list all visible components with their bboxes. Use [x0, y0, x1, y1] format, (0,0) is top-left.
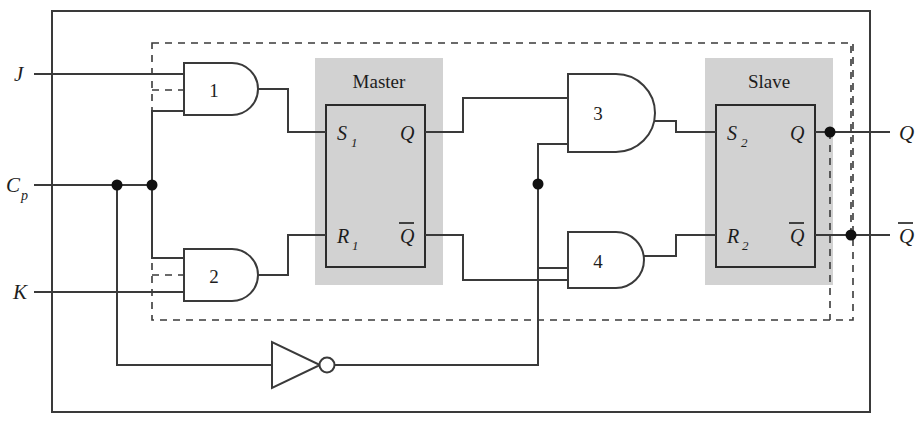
master-pin-r1-subscript: 1: [352, 238, 359, 253]
junction-dot-cp-1: [112, 180, 123, 191]
output-label-q: Q: [899, 121, 914, 145]
inverter-bubble-icon: [320, 358, 335, 373]
inverter-gate[interactable]: [272, 342, 335, 388]
gate4-label: 4: [593, 251, 603, 272]
slave-pin-qbar: Q: [789, 223, 805, 247]
output-label-qbar-glyph: Q: [899, 224, 914, 248]
slave-pin-q: Q: [790, 122, 805, 144]
slave-pin-r2-glyph: R: [726, 225, 739, 247]
master-pin-r1-glyph: R: [336, 225, 349, 247]
wire-cp-to-gate1: [152, 111, 184, 185]
gate1[interactable]: 1: [184, 63, 258, 115]
wire-cp-to-gate2: [152, 185, 184, 258]
gate3-body-group: [568, 74, 655, 152]
slave-pin-qbar-glyph: Q: [790, 225, 805, 247]
input-label-cp-main: C: [6, 173, 21, 197]
output-label-qbar: Q: [898, 223, 914, 248]
gate1-label: 1: [209, 80, 219, 101]
gate3-label: 3: [593, 103, 603, 124]
gate3[interactable]: 3: [568, 74, 655, 152]
gate1-body: [184, 63, 258, 115]
wire-gate4-to-r2: [642, 235, 716, 256]
master-pin-s1-subscript: 1: [351, 135, 358, 150]
master-pin-s1-glyph: S: [337, 122, 347, 144]
master-pin-qbar-glyph: Q: [400, 225, 415, 247]
master-pin-q: Q: [400, 122, 415, 144]
junction-dot-cp-2: [147, 180, 158, 191]
input-label-cp: C p: [6, 173, 28, 203]
wire-masterq-to-gate3: [425, 98, 568, 132]
slave-block-title: Slave: [748, 71, 790, 92]
gate4-body: [568, 232, 644, 288]
gate2-body: [184, 249, 258, 301]
gate4[interactable]: 4: [568, 232, 644, 288]
wire-inverter-to-gate4: [538, 184, 568, 268]
master-pin-qbar: Q: [399, 223, 415, 247]
junction-dot-q-output: [825, 127, 836, 138]
junction-dot-qbar-output: [846, 230, 857, 241]
slave-pin-r2-subscript: 2: [742, 238, 749, 253]
master-block-title: Master: [353, 71, 406, 92]
inverter-triangle: [272, 342, 320, 388]
slave-pin-s2-glyph: S: [727, 122, 737, 144]
junction-dot-inverter-branch: [533, 179, 544, 190]
gate2-label: 2: [209, 266, 219, 287]
gate3-body: [568, 74, 655, 152]
wire-masterqbar-to-gate4: [425, 235, 568, 280]
input-label-k: K: [12, 280, 28, 304]
slave-pin-s2-subscript: 2: [741, 135, 748, 150]
input-label-cp-subscript: p: [20, 188, 28, 203]
circuit-diagram: Master Slave: [0, 0, 923, 423]
input-label-j: J: [14, 62, 25, 86]
gate2[interactable]: 2: [184, 249, 258, 301]
diagram-canvas: Master Slave: [0, 0, 923, 423]
